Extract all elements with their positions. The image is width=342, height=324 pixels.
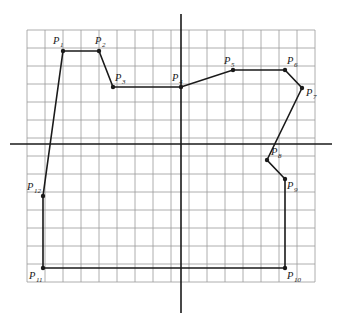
polygon-path <box>43 51 302 268</box>
figure-canvas: P1P2P3P4P5P6P7P8P9P10P11P12 <box>0 0 342 324</box>
vertex-label-p2: P2 <box>94 35 106 49</box>
vertex-label-p8: P8 <box>270 146 282 160</box>
vertex-label-p6: P6 <box>286 55 298 69</box>
vertex-marker-p2 <box>97 49 101 53</box>
vertex-marker-p8 <box>265 158 269 162</box>
vertex-marker-p11 <box>41 266 45 270</box>
vertex-marker-p12 <box>41 194 45 198</box>
vertex-marker-p7 <box>300 86 304 90</box>
vertex-marker-p3 <box>111 85 115 89</box>
vertex-marker-p6 <box>283 68 287 72</box>
vertex-marker-p1 <box>61 49 65 53</box>
vertex-labels: P1P2P3P4P5P6P7P8P9P10P11P12 <box>26 35 317 284</box>
vertex-label-p1: P1 <box>52 35 63 49</box>
vertex-label-p12: P12 <box>26 181 41 195</box>
coordinate-plot: P1P2P3P4P5P6P7P8P9P10P11P12 <box>0 0 342 324</box>
polygon-outline <box>43 51 302 268</box>
